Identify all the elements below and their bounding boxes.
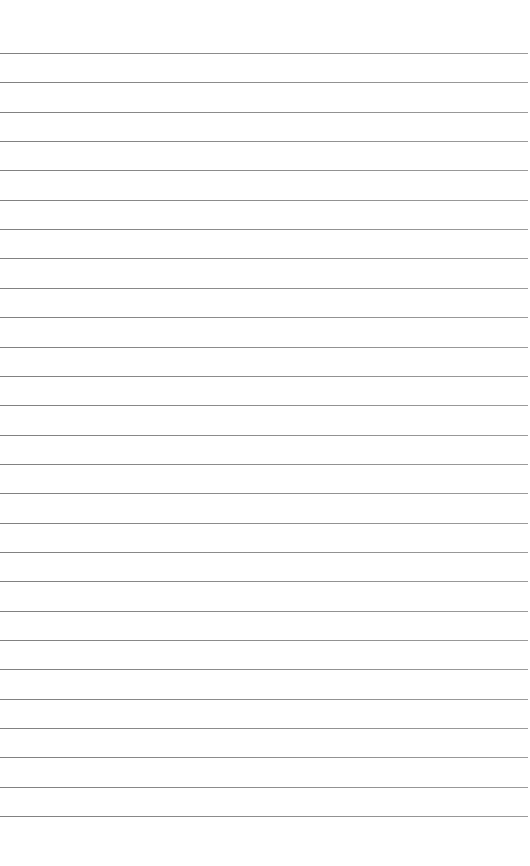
ruled-line [0,816,528,817]
ruled-line [0,757,528,758]
ruled-line [0,170,528,171]
ruled-line [0,523,528,524]
ruled-line [0,82,528,83]
ruled-line [0,405,528,406]
ruled-line [0,728,528,729]
ruled-line [0,493,528,494]
ruled-line [0,347,528,348]
ruled-line [0,258,528,259]
ruled-line [0,200,528,201]
ruled-line [0,317,528,318]
ruled-line [0,435,528,436]
ruled-line [0,581,528,582]
lined-paper-page [0,0,530,866]
ruled-line [0,464,528,465]
ruled-line [0,141,528,142]
ruled-line [0,376,528,377]
ruled-line [0,112,528,113]
ruled-line [0,552,528,553]
ruled-line [0,699,528,700]
ruled-line [0,288,528,289]
ruled-line [0,787,528,788]
ruled-line [0,669,528,670]
ruled-line [0,640,528,641]
ruled-line [0,229,528,230]
ruled-line [0,53,528,54]
ruled-line [0,611,528,612]
